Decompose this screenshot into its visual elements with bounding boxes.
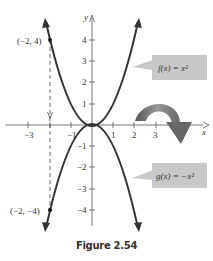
figure-caption: Figure 2.54 xyxy=(0,240,213,251)
svg-text:1: 1 xyxy=(82,99,87,109)
svg-text:g(x) = −x²: g(x) = −x² xyxy=(156,171,194,181)
svg-text:−3: −3 xyxy=(77,184,87,194)
svg-text:2: 2 xyxy=(82,77,87,87)
svg-text:2: 2 xyxy=(132,130,137,140)
svg-text:−4: −4 xyxy=(77,205,87,215)
svg-text:4: 4 xyxy=(82,35,87,45)
graph: −3 −1 1 2 3 x y 4 3 2 1 −1 −2 −3 xyxy=(0,0,213,261)
svg-text:−1: −1 xyxy=(77,141,87,151)
label-box-f: f(x) = x² xyxy=(132,55,207,80)
reflection-arrow-icon xyxy=(135,104,192,144)
point-neg2-neg4 xyxy=(48,208,52,212)
figure: −3 −1 1 2 3 x y 4 3 2 1 −1 −2 −3 xyxy=(0,0,213,261)
point-label-top: (−2, 4) xyxy=(17,36,42,46)
svg-text:−2: −2 xyxy=(77,162,87,172)
point-label-bottom: (−2, −4) xyxy=(10,206,40,216)
svg-text:1: 1 xyxy=(111,130,116,140)
label-box-g: g(x) = −x² xyxy=(132,163,207,188)
y-axis-label: y xyxy=(83,12,88,22)
svg-text:3: 3 xyxy=(82,56,87,66)
svg-text:−3: −3 xyxy=(24,130,34,140)
x-axis-label: x xyxy=(201,127,206,137)
svg-text:f(x) = x²: f(x) = x² xyxy=(158,63,188,73)
svg-text:3: 3 xyxy=(153,130,158,140)
point-neg2-4 xyxy=(48,38,52,42)
